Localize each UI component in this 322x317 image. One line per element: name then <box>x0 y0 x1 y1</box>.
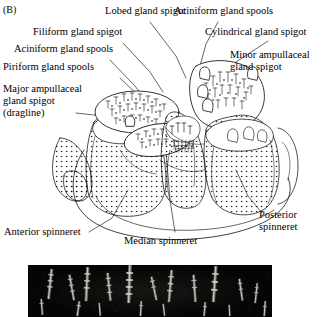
label-cylindrical-gland-spigot: Cylindrical gland spigot <box>205 26 307 38</box>
label-major-ampullaceal-gland-spigot-line1: Major ampullaceal <box>3 83 82 95</box>
label-anterior-spinneret: Anterior spinneret <box>4 226 81 238</box>
label-major-ampullaceal-gland-spigot-line3: (dragline) <box>3 107 44 119</box>
label-major-ampullaceal-gland-spigot-line2: gland spigot <box>3 95 55 107</box>
label-minor-ampullaceal-gland-spigot-line1: Minor ampullaceal <box>230 49 310 61</box>
micrograph-content <box>28 265 272 317</box>
panel-d: (D) <box>0 258 322 317</box>
label-minor-ampullaceal-gland-spigot-line2: gland spigot <box>230 61 282 73</box>
label-aciniform-gland-spools-top: Aciniform gland spools <box>174 5 273 17</box>
label-piriform-gland-spools: Piriform gland spools <box>3 61 94 73</box>
panel-b: (B) <box>0 0 322 258</box>
figure-spinnerets: (B) <box>0 0 322 317</box>
label-median-spinneret: Median spinneret <box>124 235 197 247</box>
label-filiform-gland-spigot: Filiform gland spigot <box>33 26 122 38</box>
label-posterior-spinneret-line1: Posterior <box>259 209 297 221</box>
label-posterior-spinneret-line2: spinneret <box>259 221 298 233</box>
label-aciniform-gland-spools-left: Aciniform gland spools <box>14 43 113 55</box>
micrograph-image <box>28 265 272 317</box>
